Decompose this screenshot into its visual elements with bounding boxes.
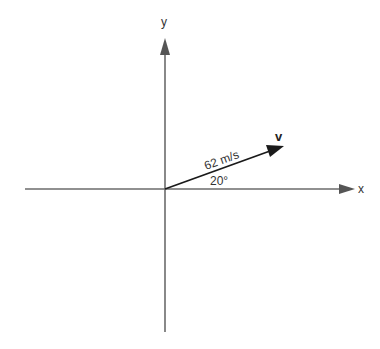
vector-arrow-icon bbox=[266, 145, 284, 157]
vector-angle-label: 20° bbox=[210, 174, 228, 188]
y-axis-label: y bbox=[161, 15, 167, 29]
x-axis: x bbox=[25, 182, 364, 196]
vector-name-label: v bbox=[275, 129, 283, 144]
y-axis-arrow-icon bbox=[160, 38, 170, 55]
vector-v: v 62 m/s 20° bbox=[165, 129, 284, 189]
y-axis: y bbox=[160, 15, 170, 332]
x-axis-label: x bbox=[358, 182, 364, 196]
diagram-canvas: x y v 62 m/s 20° bbox=[0, 0, 380, 349]
x-axis-arrow-icon bbox=[339, 184, 355, 194]
